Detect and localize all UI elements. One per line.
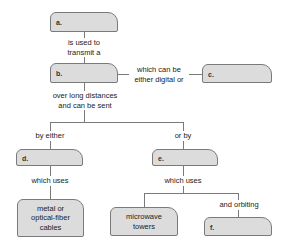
concept-box-c[interactable]: c. xyxy=(202,64,272,83)
connector-e-split-horizontal xyxy=(144,193,239,194)
link-e-uses: which uses xyxy=(161,176,205,186)
cables-line-2: optical-fiber xyxy=(31,213,70,223)
connector-split-horizontal xyxy=(50,122,183,123)
link-d-uses: which uses xyxy=(28,176,72,186)
link-to-d: by either xyxy=(30,131,70,141)
box-label-d: d. xyxy=(22,154,28,161)
cables-line-1: metal or xyxy=(31,204,70,214)
link-to-f: and orbiting xyxy=(214,200,264,210)
link-b-c: which can be either digital or xyxy=(129,65,189,84)
concept-box-cables: metal or optical-fiber cables xyxy=(17,199,84,237)
link-text: which can be xyxy=(129,65,189,75)
link-text: either digital or xyxy=(129,75,189,85)
link-text: over long distances xyxy=(44,91,126,101)
connector-b-c-right xyxy=(188,74,202,75)
concept-box-f[interactable]: f. xyxy=(204,217,272,236)
link-text: and can be sent xyxy=(44,101,126,111)
concept-box-a[interactable]: a. xyxy=(50,12,118,32)
link-text: transmit a xyxy=(50,48,118,58)
box-label-e: e. xyxy=(158,154,164,161)
link-text: is used to xyxy=(50,38,118,48)
concept-box-towers: microwave towers xyxy=(110,207,178,236)
box-label-f: f. xyxy=(210,223,214,230)
cables-line-3: cables xyxy=(31,223,70,233)
link-a-b: is used to transmit a xyxy=(50,38,118,57)
concept-box-e[interactable]: e. xyxy=(152,149,218,166)
concept-box-d[interactable]: d. xyxy=(16,149,83,166)
link-to-e: or by xyxy=(171,131,195,141)
box-label-a: a. xyxy=(56,19,62,26)
box-label-c: c. xyxy=(208,70,214,77)
link-b-split: over long distances and can be sent xyxy=(44,91,126,110)
concept-box-b[interactable]: b. xyxy=(50,63,118,83)
towers-line-2: towers xyxy=(126,222,162,232)
connector-to-towers xyxy=(144,193,145,207)
box-label-b: b. xyxy=(56,70,62,77)
towers-line-1: microwave xyxy=(126,212,162,222)
